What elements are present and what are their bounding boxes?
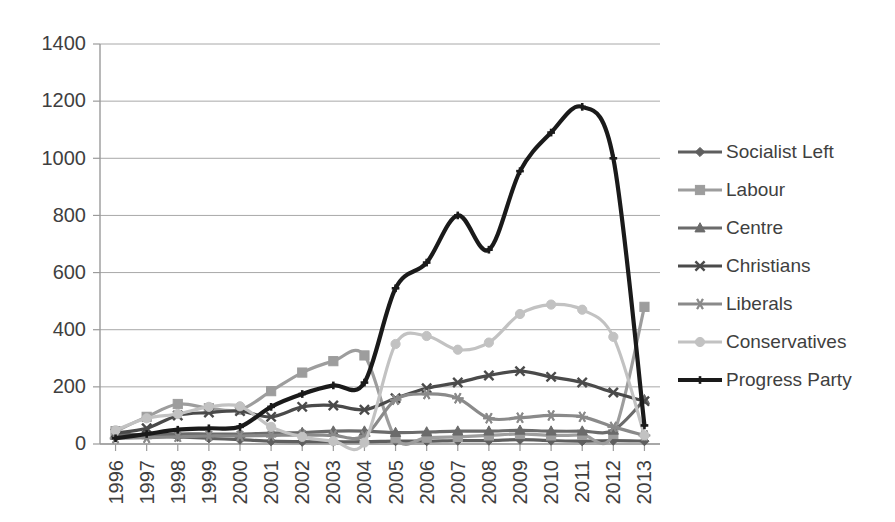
- legend-label: Socialist Left: [726, 141, 834, 162]
- marker-circle: [204, 402, 213, 411]
- marker-asterisk: [514, 413, 526, 423]
- legend-label: Christians: [726, 255, 810, 276]
- marker-circle: [484, 338, 493, 347]
- marker-asterisk: [576, 412, 588, 422]
- marker-circle: [391, 339, 400, 348]
- marker-circle: [453, 345, 462, 354]
- gridlines: [100, 44, 660, 444]
- legend-label: Centre: [726, 217, 783, 238]
- marker-circle: [515, 309, 524, 318]
- marker-circle: [578, 305, 587, 314]
- legend-item-christians[interactable]: Christians: [678, 255, 810, 276]
- series-line: [116, 307, 645, 444]
- marker-circle: [609, 332, 618, 341]
- legend-label: Conservatives: [726, 331, 846, 352]
- marker-circle: [235, 402, 244, 411]
- x-tick-label: 2009: [509, 460, 531, 505]
- marker-circle: [111, 426, 120, 435]
- marker-diamond: [695, 147, 704, 156]
- legend-item-liberals[interactable]: Liberals: [678, 293, 793, 314]
- y-tick-label: 800: [53, 204, 86, 226]
- marker-square: [267, 387, 276, 396]
- y-tick-label: 200: [53, 375, 86, 397]
- marker-plus: [696, 376, 704, 384]
- legend: Socialist LeftLabourCentreChristiansLibe…: [678, 141, 852, 390]
- y-tick-label: 600: [53, 261, 86, 283]
- x-tick-label: 1996: [105, 460, 127, 505]
- marker-circle: [422, 331, 431, 340]
- marker-square: [695, 185, 704, 194]
- x-tick-label: 2011: [571, 460, 593, 503]
- legend-item-socialist-left[interactable]: Socialist Left: [678, 141, 834, 162]
- marker-circle: [298, 432, 307, 441]
- marker-circle: [329, 437, 338, 446]
- x-tick-label: 2008: [478, 460, 500, 505]
- x-tick-label: 1999: [198, 460, 220, 505]
- legend-item-progress-party[interactable]: Progress Party: [678, 369, 852, 390]
- marker-circle: [142, 414, 151, 423]
- series-layer: [110, 103, 650, 450]
- legend-item-labour[interactable]: Labour: [678, 179, 786, 200]
- line-chart: 0200400600800100012001400 19961997199819…: [0, 0, 895, 522]
- marker-plus: [329, 382, 337, 390]
- marker-square: [173, 399, 182, 408]
- marker-asterisk: [545, 410, 557, 420]
- x-tick-label: 2001: [260, 460, 282, 505]
- x-tick-label: 2010: [540, 460, 562, 505]
- y-tick-label: 1400: [42, 32, 87, 54]
- x-tick-label: 2004: [353, 460, 375, 505]
- x-tick-label: 1997: [136, 460, 158, 505]
- legend-label: Liberals: [726, 293, 793, 314]
- legend-label: Labour: [726, 179, 786, 200]
- marker-circle: [695, 337, 704, 346]
- chart-svg: 0200400600800100012001400 19961997199819…: [0, 0, 895, 522]
- series-line: [116, 371, 645, 433]
- x-tick-label: 2003: [322, 460, 344, 505]
- x-tick-label: 2006: [416, 460, 438, 505]
- marker-square: [298, 368, 307, 377]
- legend-label: Progress Party: [726, 369, 852, 390]
- marker-square: [640, 302, 649, 311]
- marker-plus: [609, 154, 617, 162]
- x-tick-label: 2000: [229, 460, 251, 505]
- marker-square: [360, 351, 369, 360]
- x-axis-ticks: 1996199719981999200020012002200320042005…: [105, 444, 656, 505]
- marker-circle: [267, 422, 276, 431]
- marker-square: [329, 357, 338, 366]
- marker-circle: [640, 431, 649, 440]
- y-tick-label: 400: [53, 318, 86, 340]
- y-tick-label: 1000: [42, 147, 87, 169]
- y-tick-label: 1200: [42, 89, 87, 111]
- marker-asterisk: [694, 299, 706, 309]
- legend-item-conservatives[interactable]: Conservatives: [678, 331, 846, 352]
- series-labour: [111, 302, 649, 444]
- x-tick-label: 2005: [385, 460, 407, 505]
- marker-circle: [547, 300, 556, 309]
- marker-circle: [360, 438, 369, 447]
- y-axis-ticks: 0200400600800100012001400: [42, 32, 101, 454]
- x-tick-label: 2012: [602, 460, 624, 505]
- y-tick-label: 0: [75, 432, 86, 454]
- axis-lines: [100, 44, 660, 444]
- x-tick-label: 1998: [167, 460, 189, 505]
- x-tick-label: 2013: [633, 460, 655, 505]
- x-tick-label: 2002: [291, 460, 313, 505]
- x-tick-label: 2007: [447, 460, 469, 505]
- legend-item-centre[interactable]: Centre: [678, 217, 783, 238]
- marker-circle: [173, 409, 182, 418]
